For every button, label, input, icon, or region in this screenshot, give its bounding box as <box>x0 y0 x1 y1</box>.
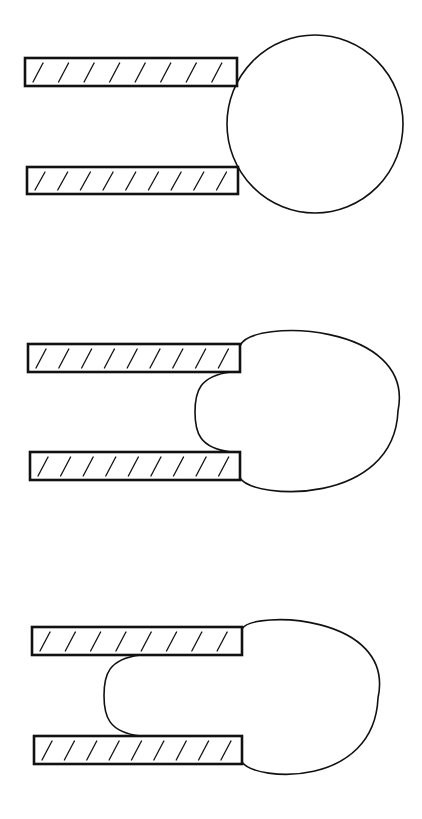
panel-stage-2 <box>28 331 399 492</box>
bubble-circle <box>227 35 403 213</box>
top-plate <box>28 344 240 372</box>
bottom-plate <box>30 452 240 480</box>
bottom-plate <box>34 736 242 764</box>
top-plate <box>32 627 242 655</box>
panel-stage-3 <box>32 620 380 775</box>
top-plate <box>25 58 237 86</box>
panel-stage-1 <box>25 35 403 213</box>
bottom-plate <box>27 167 238 194</box>
bubble-channel-diagram <box>0 0 422 819</box>
